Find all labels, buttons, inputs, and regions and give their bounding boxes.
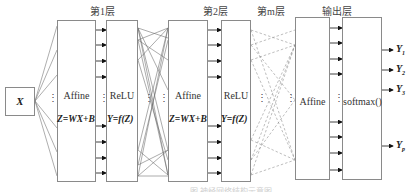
layer2-header: 第2层	[203, 3, 228, 18]
input-node-x: X	[5, 87, 35, 116]
input-label: X	[6, 95, 34, 107]
softmax-box: softmax()	[342, 17, 382, 180]
layer-m-header: 第m层	[257, 3, 285, 18]
layer2-affine-equation: Z=WX+B	[169, 114, 207, 124]
output-yp: Yp	[396, 139, 405, 152]
layer2-relu-label: ReLU	[222, 90, 250, 101]
layer1-affine-box: Affine Z=WX+B	[57, 20, 96, 182]
softmax-label: softmax()	[343, 96, 381, 107]
layer1-affine-label: Affine	[58, 90, 95, 101]
layer1-relu-equation: Y=f(Z)	[107, 114, 134, 124]
layer1-header: 第1层	[90, 3, 115, 18]
output-in-ellipsis: ⋮	[286, 96, 290, 100]
output-y1: Y1	[396, 43, 405, 56]
layer2-relu-equation: Y=f(Z)	[221, 114, 248, 124]
layer2-arrows	[208, 30, 221, 173]
figure-caption: 图 神经网络结构示意图	[190, 185, 272, 192]
output-layer-header: 输出层	[322, 3, 352, 18]
layer2-affine-box: Affine Z=WX+B	[168, 20, 208, 182]
layer1-relu-label: ReLU	[107, 90, 137, 101]
layer2-affine-label: Affine	[169, 90, 207, 101]
output-y-arrows	[382, 50, 393, 146]
layer2-relu-box: ReLU Y=f(Z)	[221, 20, 251, 182]
output-y3: Y3	[396, 83, 405, 96]
layer1-relu-box: ReLU Y=f(Z)	[106, 20, 138, 182]
layer1-affine-equation: Z=WX+B	[57, 114, 95, 124]
output-arrow-ellipsis: ⋮	[334, 96, 338, 100]
layer1-out-ellipsis: ⋮	[144, 96, 148, 100]
output-y2: Y2	[396, 63, 405, 76]
layer2-in-ellipsis: ⋮	[159, 96, 163, 100]
layer2-out-ellipsis: ⋮	[257, 96, 261, 100]
layer1-arrow-ellipsis: ⋮	[99, 96, 103, 100]
output-affine-box: Affine	[295, 17, 330, 180]
input-ellipsis: ⋮	[48, 96, 52, 100]
output-affine-label: Affine	[296, 96, 329, 107]
